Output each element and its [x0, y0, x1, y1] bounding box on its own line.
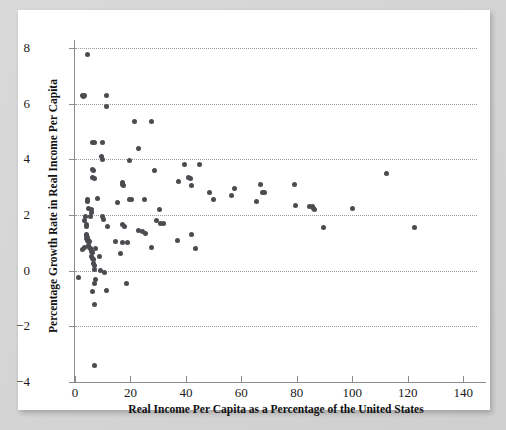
scatter-point: [120, 240, 125, 245]
scatter-point: [188, 176, 193, 181]
x-axis-tick-label: 100: [342, 385, 362, 401]
y-axis-tick-label: 6: [6, 96, 30, 112]
scatter-point: [122, 224, 127, 229]
x-axis-tick: [241, 376, 242, 382]
y-axis-tick-label: 8: [6, 40, 30, 56]
scatter-point: [254, 199, 259, 204]
scatter-point: [115, 200, 120, 205]
scatter-point: [293, 203, 298, 208]
x-axis-tick: [297, 376, 298, 382]
gridline: [75, 159, 477, 160]
scatter-point: [189, 183, 194, 188]
scatter-point: [92, 140, 97, 145]
y-axis-tick-label: 4: [6, 151, 30, 167]
y-axis-tick-label: 2: [6, 207, 30, 223]
x-axis-tick: [463, 376, 464, 382]
scatter-point: [182, 162, 187, 167]
scatter-point: [92, 302, 97, 307]
scatter-point: [229, 193, 234, 198]
scatter-point: [149, 245, 154, 250]
scatter-point: [176, 179, 181, 184]
scatter-point: [88, 214, 93, 219]
y-axis-tick-label: −2: [6, 318, 30, 334]
scatter-point: [142, 197, 147, 202]
gridline: [75, 48, 477, 49]
y-axis-tick-label: −4: [6, 374, 30, 390]
y-axis-tick: [69, 159, 74, 160]
scatter-point: [118, 251, 123, 256]
x-axis-line: [74, 382, 486, 383]
scatter-point: [84, 224, 89, 229]
y-axis-line: [74, 40, 75, 382]
y-axis-tick: [69, 215, 74, 216]
scatter-point: [207, 190, 212, 195]
scatter-point: [312, 207, 317, 212]
y-axis-tick: [69, 48, 74, 49]
plot-area: [75, 48, 477, 382]
scatter-point: [100, 157, 105, 162]
scatter-point: [189, 232, 194, 237]
scatter-point: [350, 206, 355, 211]
scatter-point: [85, 52, 90, 57]
scatter-point: [76, 275, 81, 280]
scatter-point: [152, 168, 157, 173]
scatter-point: [292, 182, 297, 187]
scatter-point: [262, 190, 267, 195]
scatter-point: [384, 171, 389, 176]
x-axis-tick-label: 80: [290, 385, 303, 401]
scatter-point: [197, 162, 202, 167]
scatter-point: [82, 93, 87, 98]
x-axis-tick-label: 40: [179, 385, 192, 401]
y-axis-tick: [69, 382, 74, 383]
scatter-point: [149, 119, 154, 124]
scatter-point: [125, 240, 130, 245]
scatter-point: [193, 246, 198, 251]
scatter-point: [92, 363, 97, 368]
scatter-point: [175, 238, 180, 243]
scatter-point: [92, 176, 97, 181]
scatter-point: [102, 270, 107, 275]
scatter-point: [136, 146, 141, 151]
scatter-point: [321, 225, 326, 230]
scatter-point: [129, 197, 134, 202]
chart-card: Real Income Per Capita as a Percentage o…: [18, 10, 490, 410]
x-axis-tick-label: 60: [235, 385, 248, 401]
scatter-point: [127, 158, 132, 163]
scatter-point: [101, 217, 106, 222]
x-axis-tick: [75, 376, 76, 382]
scatter-point: [104, 288, 109, 293]
gridline: [75, 271, 477, 272]
scatter-point: [92, 267, 97, 272]
scatter-point: [100, 140, 105, 145]
x-axis-tick: [130, 376, 131, 382]
scatter-point: [113, 239, 118, 244]
scatter-point: [91, 168, 96, 173]
scatter-point: [93, 246, 98, 251]
scatter-point: [80, 247, 85, 252]
y-axis-tick: [69, 271, 74, 272]
x-axis-tick-label: 20: [124, 385, 137, 401]
scatter-point: [232, 186, 237, 191]
scatter-point: [85, 199, 90, 204]
scatter-point: [132, 119, 137, 124]
gridline: [75, 215, 477, 216]
y-axis-tick: [69, 104, 74, 105]
scatter-point: [104, 104, 109, 109]
x-axis-tick: [408, 376, 409, 382]
scatter-point: [211, 197, 216, 202]
scatter-point: [95, 196, 100, 201]
y-axis-title: Percentage Growth Rate in Real Income Pe…: [47, 56, 59, 356]
x-axis-tick-label: 0: [72, 385, 79, 401]
scatter-point: [258, 182, 263, 187]
gridline: [75, 104, 477, 105]
scatter-point: [97, 254, 102, 259]
x-axis-tick-label: 120: [398, 385, 418, 401]
gridline: [75, 326, 477, 327]
scatter-point: [157, 207, 162, 212]
scatter-point: [104, 93, 109, 98]
scatter-point: [121, 183, 126, 188]
scatter-point: [92, 281, 97, 286]
figure-root: Real Income Per Capita as a Percentage o…: [0, 0, 506, 430]
scatter-point: [161, 221, 166, 226]
scatter-point: [143, 231, 148, 236]
